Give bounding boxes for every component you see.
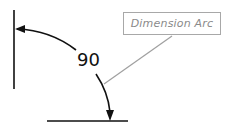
arrowhead-left-icon xyxy=(15,25,25,33)
arrowhead-down-icon xyxy=(106,110,114,121)
leader-line xyxy=(104,36,172,84)
callout-label: Dimension Arc xyxy=(131,17,214,30)
angle-value-label: 90 xyxy=(77,50,100,70)
dimension-arc-upper xyxy=(17,29,76,50)
callout-box: Dimension Arc xyxy=(123,12,221,35)
dimension-arc-lower xyxy=(96,74,110,112)
